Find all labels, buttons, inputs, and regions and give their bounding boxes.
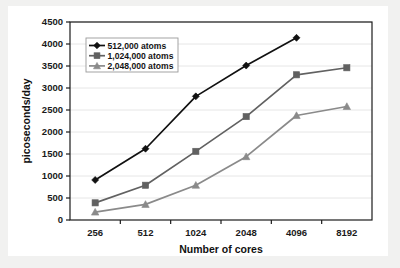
- y-axis-tick-label: 2500: [42, 104, 63, 115]
- data-point-marker: [243, 114, 249, 120]
- line-chart: 050010001500200025003000350040004500 256…: [8, 6, 388, 256]
- y-axis-tick-label: 3000: [42, 82, 63, 93]
- y-axis-tick-label: 2000: [42, 126, 63, 137]
- legend-label: 2,048,000 atoms: [108, 61, 174, 71]
- y-axis-tick-label: 3500: [42, 60, 63, 71]
- x-axis-tick-label: 256: [87, 227, 103, 238]
- chart-canvas: 050010001500200025003000350040004500 256…: [8, 6, 388, 256]
- y-axis-tick-label: 500: [47, 192, 63, 203]
- x-axis-tick-label: 4096: [286, 227, 307, 238]
- y-axis-tick-label: 4500: [42, 16, 63, 27]
- y-axis-tick-label: 4000: [42, 38, 63, 49]
- figure-container: 050010001500200025003000350040004500 256…: [0, 0, 400, 268]
- square-marker: [94, 53, 100, 59]
- data-point-marker: [92, 200, 98, 206]
- y-axis-tick-label: 1500: [42, 148, 63, 159]
- data-point-marker: [142, 182, 148, 188]
- y-axis-tick-label: 0: [58, 214, 63, 225]
- chart-legend: 512,000 atoms1,024,000 atoms2,048,000 at…: [86, 38, 178, 72]
- x-axis-tick-label: 8192: [336, 227, 357, 238]
- legend-label: 1,024,000 atoms: [108, 51, 174, 61]
- data-point-marker: [293, 72, 299, 78]
- legend-label: 512,000 atoms: [108, 41, 167, 51]
- data-point-marker: [344, 65, 350, 71]
- x-axis-title: Number of cores: [179, 243, 263, 255]
- data-point-marker: [193, 148, 199, 154]
- y-axis-title: picoseconds/day: [20, 78, 32, 163]
- x-axis-tick-label: 1024: [185, 227, 207, 238]
- x-axis-tick-label: 512: [138, 227, 154, 238]
- y-axis-tick-label: 1000: [42, 170, 63, 181]
- x-axis-tick-label: 2048: [236, 227, 257, 238]
